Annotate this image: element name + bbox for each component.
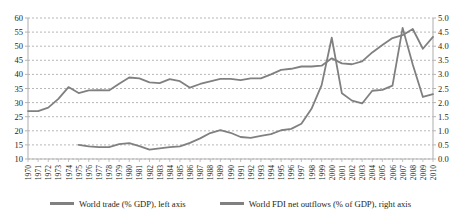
x-axis-tick-label: 2006 [389,165,398,180]
legend-swatch-world-fdi [220,202,244,205]
x-axis-tick-label: 1986 [186,165,195,180]
left-axis-tick-label: 10 [15,154,24,164]
x-axis-tick-label: 2000 [328,165,337,180]
x-axis-tick-label: 1980 [125,165,134,180]
x-axis-tick-label: 2001 [338,165,347,180]
legend-item-world-trade: World trade (% GDP), left axis [50,199,186,209]
left-axis-tick-label: 20 [15,126,24,136]
x-axis-tick-label: 1985 [176,165,185,180]
right-axis-tick-label: 4.0 [438,41,449,51]
x-axis-tick-label: 1983 [156,165,165,180]
x-axis-tick-label: 1973 [54,165,63,180]
right-axis-tick-label: 0.0 [438,154,449,164]
x-axis-tick-label: 2009 [419,165,428,180]
x-axis-tick-label: 1976 [85,165,94,180]
x-axis-tick-label: 1997 [297,165,306,180]
x-axis-tick-label: 2002 [348,165,357,180]
right-axis-tick-label: 4.5 [438,27,449,37]
plot-area: 10152025303540455055600.00.51.01.52.02.5… [0,0,461,190]
left-axis-tick-label: 60 [15,13,24,23]
x-axis-tick-label: 1995 [277,165,286,180]
x-axis-tick-label: 1989 [216,165,225,180]
x-axis-tick-label: 1979 [115,165,124,180]
legend-label-world-fdi: World FDI net outflows (% of GDP), right… [249,199,411,209]
left-axis-tick-label: 45 [15,55,24,65]
left-axis-tick-label: 55 [15,27,24,37]
x-axis-tick-label: 1994 [267,165,276,180]
line-chart-svg: 10152025303540455055600.00.51.01.52.02.5… [0,0,461,190]
left-axis-tick-label: 35 [15,84,24,94]
right-axis-tick-label: 3.5 [438,55,449,65]
x-axis-tick-label: 1999 [318,165,327,180]
chart-container: 10152025303540455055600.00.51.01.52.02.5… [0,0,461,217]
left-axis-tick-label: 30 [15,98,24,108]
x-axis-tick-label: 1972 [44,165,53,180]
x-axis-tick-label: 2008 [409,165,418,180]
legend-label-world-trade: World trade (% GDP), left axis [79,199,186,209]
right-axis-tick-label: 1.0 [438,126,449,136]
left-axis-tick-label: 40 [15,69,24,79]
x-axis-tick-label: 1996 [287,165,296,180]
x-axis-tick-label: 1978 [105,165,114,180]
x-axis-tick-label: 2005 [378,165,387,180]
x-axis-tick-label: 2007 [399,165,408,180]
x-axis-tick-label: 1988 [206,165,215,180]
left-axis-tick-label: 50 [15,41,24,51]
x-axis-tick-label: 1990 [227,165,236,180]
x-axis-tick-label: 1998 [308,165,317,180]
right-axis-tick-label: 0.5 [438,140,449,150]
x-axis-tick-label: 2004 [368,165,377,180]
legend-item-world-fdi: World FDI net outflows (% of GDP), right… [220,199,411,209]
series-line-world-trade [28,29,433,111]
x-axis-tick-label: 2003 [358,165,367,180]
x-axis-tick-label: 1991 [237,165,246,180]
x-axis-tick-label: 1977 [95,165,104,180]
x-axis-tick-label: 1987 [196,165,205,180]
right-axis-tick-label: 5.0 [438,13,449,23]
x-axis-tick-label: 1984 [166,165,175,180]
x-axis-tick-label: 1981 [135,165,144,180]
x-axis-tick-label: 1975 [75,165,84,180]
x-axis-tick-label: 1971 [34,165,43,180]
x-axis-tick-label: 1974 [65,165,74,180]
left-axis-tick-label: 25 [15,112,24,122]
x-axis-tick-label: 2010 [429,165,438,180]
x-axis-tick-label: 1993 [257,165,266,180]
right-axis-tick-label: 2.5 [438,84,449,94]
x-axis-tick-label: 1992 [247,165,256,180]
right-axis-tick-label: 1.5 [438,112,449,122]
right-axis-tick-label: 3.0 [438,69,449,79]
x-axis-tick-label: 1970 [24,165,33,180]
chart-legend: World trade (% GDP), left axis World FDI… [0,190,461,217]
right-axis-tick-label: 2.0 [438,98,449,108]
x-axis-tick-label: 1982 [146,165,155,180]
legend-swatch-world-trade [50,202,74,205]
left-axis-tick-label: 15 [15,140,24,150]
